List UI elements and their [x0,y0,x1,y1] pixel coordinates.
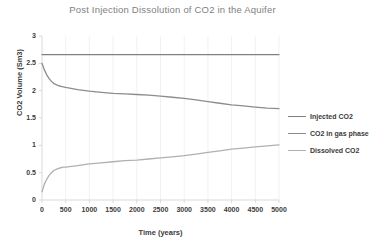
legend-label: Dissolved CO2 [310,147,359,154]
y-tick-label: 1.5 [10,114,36,122]
legend-swatch-icon [288,116,306,117]
chart-container: Post Injection Dissolution of CO2 in the… [0,0,391,251]
x-tick-label: 500 [60,206,72,214]
x-tick-label: 5000 [271,206,287,214]
x-tick-label: 4500 [248,206,264,214]
x-tick-label: 2000 [129,206,145,214]
legend-swatch-icon [288,150,306,151]
y-tick-label: 1 [10,141,36,149]
y-tick-label: 0.5 [10,169,36,177]
legend-item[interactable]: CO2 in gas phase [288,125,369,142]
legend-label: CO2 in gas phase [310,130,369,137]
x-tick-label: 1500 [105,206,121,214]
legend-item[interactable]: Injected CO2 [288,108,369,125]
x-tick-label: 1000 [82,206,98,214]
y-tick-label: 3 [10,32,36,40]
x-tick-label: 2500 [153,206,169,214]
x-tick-label: 0 [40,206,44,214]
legend-label: Injected CO2 [310,113,353,120]
x-tick-label: 3500 [200,206,216,214]
x-tick-label: 3000 [176,206,192,214]
y-tick-label: 2.5 [10,59,36,67]
chart-legend: Injected CO2CO2 in gas phaseDissolved CO… [288,108,369,159]
legend-item[interactable]: Dissolved CO2 [288,142,369,159]
y-tick-label: 2 [10,87,36,95]
y-tick-label: 0 [10,196,36,204]
legend-swatch-icon [288,133,306,134]
x-tick-label: 4000 [224,206,240,214]
